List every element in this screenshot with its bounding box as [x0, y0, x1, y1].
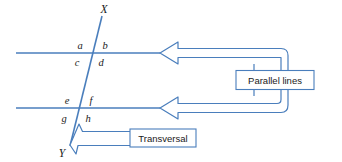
diagram-svg: X Y a b c d e f g h Parallel lines — [0, 0, 342, 162]
angle-label-d: d — [98, 57, 104, 68]
angle-label-b: b — [102, 40, 107, 51]
angle-label-f: f — [90, 95, 95, 106]
angle-label-g: g — [61, 113, 66, 124]
transversal-line — [70, 16, 102, 146]
geometry-diagram-canvas: X Y a b c d e f g h Parallel lines — [0, 0, 342, 162]
parallel-lines-callout-label: Parallel lines — [248, 75, 302, 86]
parallel-lines-upper-arrow — [160, 42, 288, 72]
parallel-lines-callout-box: Parallel lines — [236, 71, 314, 90]
angle-label-c: c — [75, 57, 80, 68]
endpoint-label-y: Y — [59, 147, 67, 159]
transversal-callout-label: Transversal — [138, 133, 187, 144]
transversal-callout-box: Transversal — [130, 129, 196, 147]
transversal-arrow — [70, 124, 131, 154]
angle-label-a: a — [77, 40, 82, 51]
angle-label-h: h — [85, 113, 90, 124]
endpoint-label-x: X — [99, 3, 108, 15]
parallel-lines-lower-arrow — [160, 88, 288, 119]
angle-label-e: e — [65, 95, 70, 106]
